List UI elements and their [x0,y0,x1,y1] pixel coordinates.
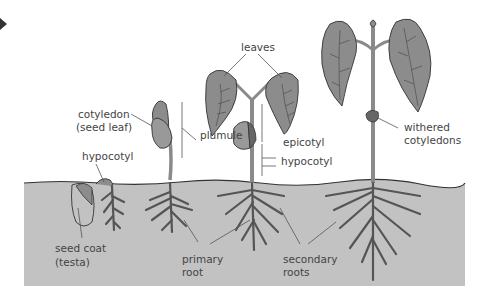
label-seed-leaf: (seed leaf) [76,121,132,133]
label-root: root [182,266,203,278]
label-withered: withered [404,121,450,133]
label-cotyledons: cotyledons [404,134,461,146]
label-plumule: plumule [200,129,243,141]
label-epicotyl: epicotyl [283,136,325,148]
label-hypocotyl-stage1: hypocotyl [82,150,133,162]
leaf-right-3 [266,72,299,134]
label-primary: primary [182,253,223,265]
label-cotyledon: cotyledon [78,108,130,120]
label-testa: (testa) [55,256,90,268]
label-seed-coat: seed coat [55,242,106,254]
label-leaves: leaves [241,41,275,53]
leaf-right-4 [389,19,431,112]
label-secondary: secondary [283,253,337,265]
germination-diagram: leaves cotyledon (seed leaf) plumule epi… [0,0,487,301]
label-hypocotyl-stage3: hypocotyl [281,155,332,167]
label-roots: roots [283,266,310,278]
